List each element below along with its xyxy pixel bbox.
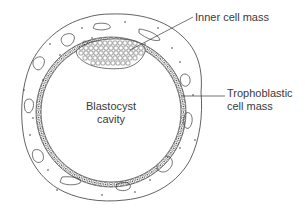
cavity-label-line-1: Blastocyst [80,100,142,113]
trophoblast-label-line-2: cell mass [227,100,293,113]
inner-cell-mass-label: Inner cell mass [195,11,269,24]
blastocyst-cavity-label: Blastocyst cavity [80,100,142,126]
trophoblast-label-line-1: Trophoblastic [227,87,293,100]
cavity-label-line-2: cavity [80,113,142,126]
trophoblastic-cell-mass-label: Trophoblastic cell mass [227,87,293,113]
